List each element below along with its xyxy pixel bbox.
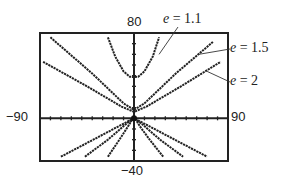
legend-e-1-5: e = 1.5 [230, 40, 269, 56]
y-max-label: 80 [127, 14, 141, 29]
focus-point [131, 115, 137, 121]
x-min-label: −90 [6, 109, 28, 124]
legend-eq: = 2 [236, 73, 258, 88]
x-max-label: 90 [231, 109, 245, 124]
legend-e-1-1: e = 1.1 [163, 11, 202, 27]
y-min-label: −40 [121, 163, 143, 178]
legend-e-2: e = 2 [230, 73, 258, 89]
legend-eq: = 1.1 [169, 11, 201, 26]
legend-eq: = 1.5 [236, 40, 268, 55]
